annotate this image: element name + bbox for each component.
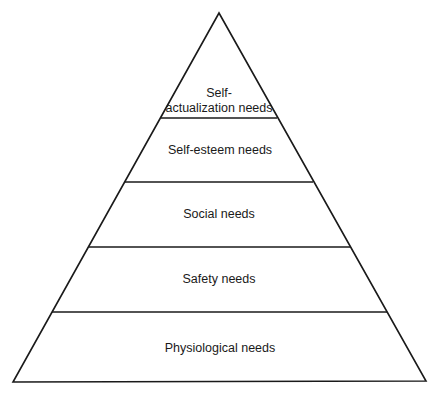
level-self-actualization-line2: actualization needs (165, 101, 272, 116)
level-self-actualization: Self- actualization needs (165, 86, 272, 116)
pyramid-outline (13, 13, 426, 382)
level-self-esteem: Self-esteem needs (168, 143, 272, 158)
level-physiological: Physiological needs (165, 341, 276, 356)
level-social: Social needs (183, 207, 255, 222)
level-self-actualization-line1: Self- (165, 86, 272, 101)
pyramid-diagram (0, 0, 439, 395)
level-safety: Safety needs (183, 272, 256, 287)
